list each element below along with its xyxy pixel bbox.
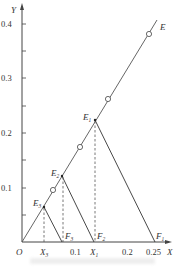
y-tick-0.4: 0.4 [1, 19, 12, 29]
x1-label: X1 [89, 247, 99, 258]
f3-label: F3 [64, 231, 74, 242]
equilibrium-line-label: E [159, 22, 166, 32]
equilibrium-line [22, 20, 157, 242]
x-axis-arrow-icon [165, 240, 172, 244]
figure-caption [30, 258, 155, 264]
x-axis-label: X [166, 247, 173, 257]
x-tick-0.1: 0.1 [70, 247, 81, 257]
x3-label: X3 [39, 247, 49, 258]
f2-label: F2 [96, 231, 106, 242]
stage-lines [44, 120, 155, 242]
e1-label: E1 [82, 112, 92, 123]
point-e3 [43, 206, 45, 208]
y-tick-0.1: 0.1 [1, 183, 12, 193]
x-tick-0.2: 0.2 [122, 247, 133, 257]
y-tick-0.2: 0.2 [1, 128, 12, 138]
y-axis-label: Y [11, 5, 17, 15]
y-axis-arrow-icon [20, 3, 24, 10]
f1-label: F1 [155, 231, 165, 242]
point-e1 [94, 119, 96, 121]
y-ticks [22, 24, 26, 215]
origin-label: O [16, 247, 23, 257]
x-tick-0.25: 0.25 [146, 247, 161, 257]
dashed-verticals [44, 121, 95, 242]
e3-label: E3 [32, 198, 42, 209]
y-tick-0.3: 0.3 [1, 73, 12, 83]
stagewise-diagram: 0.4 0.3 0.2 0.1 Y O 0.1 0.2 0.25 X X3 X1… [0, 0, 178, 269]
point-e2 [61, 175, 63, 177]
e2-label: E2 [50, 168, 60, 179]
